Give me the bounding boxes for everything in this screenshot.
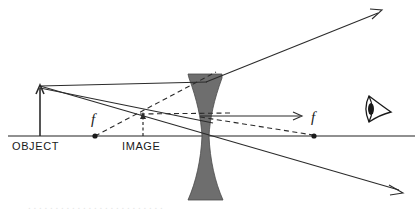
lens-ray-diagram: . . . . . . . . . . . . . . . . . . . . … [0, 0, 419, 210]
eye-icon [366, 96, 391, 122]
focal-right-label: f [311, 109, 317, 125]
virtual-extension-horizontal [140, 113, 230, 114]
arrowhead-lower-right [389, 185, 403, 195]
virtual-ray-to-right-focus [200, 117, 313, 135]
caption-ghost-row: . . . . . . . . . . . . . . . . . . . . … [28, 199, 163, 210]
image-label: IMAGE [122, 140, 160, 152]
object-label: OBJECT [12, 140, 59, 152]
object-arrow [36, 85, 44, 136]
focal-point-left-dot [92, 133, 97, 138]
focal-point-right-dot [311, 133, 316, 138]
svg-text:. . . . . . . . . . . .: . . . . . . . . . . . . . . . . . . . . … [28, 199, 163, 210]
ray-toward-focus-incident [40, 88, 213, 123]
ray-parallel-refracted [206, 13, 378, 82]
ray-parallel-incident [40, 82, 207, 86]
diagram-canvas: . . . . . . . . . . . . . . . . . . . . … [0, 0, 419, 210]
focal-left-label: f [91, 111, 97, 127]
